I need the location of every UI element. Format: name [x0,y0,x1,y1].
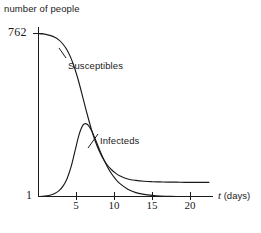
y-tick-label-762: 762 [8,26,27,38]
curve-label-infecteds: Infecteds [100,136,139,146]
curve-label-susceptibles: Susceptibles [68,61,123,71]
x-tick-label-15: 15 [147,200,158,211]
x-tick-label-20: 20 [185,200,196,211]
y-axis-label: number of people [4,4,80,14]
epidemic-chart-figure: number of people 762 1 5 10 15 20 t (day… [0,0,261,233]
leader-line-susceptibles [59,48,66,58]
x-axis-label: t (days) [218,190,250,201]
x-tick-label-5: 5 [73,200,79,211]
x-tick-label-10: 10 [109,200,120,211]
x-axis-label-units-text: (days) [224,190,250,201]
y-tick-label-1: 1 [26,189,32,201]
